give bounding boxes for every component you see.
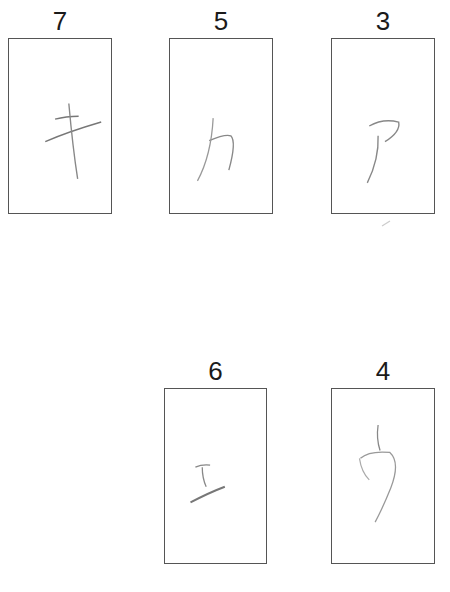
card-box xyxy=(164,388,267,564)
card-7[interactable]: 7 xyxy=(8,6,112,214)
card-3[interactable]: 3 xyxy=(331,6,435,214)
card-number: 7 xyxy=(8,8,112,34)
stray-pencil-mark xyxy=(380,218,394,228)
katakana-ka-glyph xyxy=(170,39,272,213)
card-box xyxy=(169,38,273,214)
card-number: 5 xyxy=(169,8,273,34)
card-6[interactable]: 6 xyxy=(164,356,267,564)
katakana-ki-glyph xyxy=(9,39,111,213)
card-number: 6 xyxy=(164,358,267,384)
card-4[interactable]: 4 xyxy=(331,356,435,564)
katakana-e-glyph xyxy=(165,389,266,563)
card-box xyxy=(331,388,435,564)
card-5[interactable]: 5 xyxy=(169,6,273,214)
card-number: 3 xyxy=(331,8,435,34)
katakana-a-glyph xyxy=(332,39,434,213)
card-box xyxy=(331,38,435,214)
card-number: 4 xyxy=(331,358,435,384)
katakana-u-glyph xyxy=(332,389,434,563)
card-box xyxy=(8,38,112,214)
